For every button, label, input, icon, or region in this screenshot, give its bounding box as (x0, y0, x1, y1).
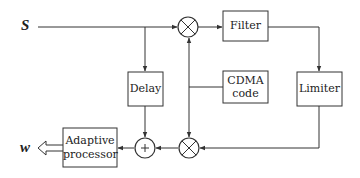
bottom-multiplier-icon (179, 138, 199, 158)
cdma-code-label-line2: code (223, 87, 268, 100)
output-weights-label: w (20, 139, 30, 156)
limiter-label: Limiter (297, 82, 342, 95)
input-signal-label: S (21, 17, 29, 34)
delay-label: Delay (128, 82, 163, 95)
filter-label: Filter (223, 19, 268, 32)
adaptive-processor-label-line1: Adaptive (63, 134, 117, 147)
wire-filter-to-limiter (268, 27, 319, 71)
top-multiplier-icon (178, 17, 198, 37)
adaptive-processor-label-line2: processor (63, 148, 117, 161)
cdma-adaptive-block-diagram: S w Filter Limiter Delay CDMA code Adapt… (0, 0, 360, 178)
wire-limiter-to-multiplier (200, 106, 319, 148)
summer-icon (135, 138, 155, 158)
hollow-output-arrow-icon (38, 141, 63, 155)
cdma-code-label-line1: CDMA (223, 74, 268, 87)
